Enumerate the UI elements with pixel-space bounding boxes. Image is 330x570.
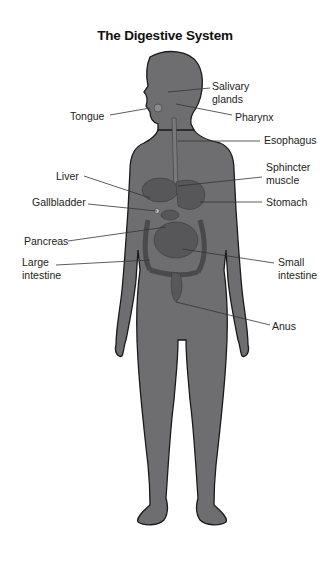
label-salivary-line1: Salivary	[212, 80, 249, 93]
label-sphincter-line1: Sphincter	[266, 161, 310, 174]
tongue-line	[110, 108, 150, 115]
mouth-region	[154, 104, 162, 112]
label-salivary-glands: Salivary glands	[212, 80, 249, 106]
label-anus: Anus	[272, 320, 296, 333]
label-pancreas: Pancreas	[24, 235, 68, 248]
human-body-figure	[0, 0, 330, 570]
label-stomach: Stomach	[266, 196, 307, 209]
label-small-intestine-line2: intestine	[278, 269, 317, 282]
label-small-intestine-line1: Small	[278, 256, 317, 269]
label-liver: Liver	[56, 170, 79, 183]
label-large-intestine-line1: Large	[22, 256, 61, 269]
label-tongue: Tongue	[70, 110, 104, 123]
label-sphincter-muscle: Sphincter muscle	[266, 161, 310, 187]
label-pharynx: Pharynx	[235, 111, 274, 124]
label-large-intestine-line2: intestine	[22, 269, 61, 282]
label-salivary-line2: glands	[212, 93, 249, 106]
label-sphincter-line2: muscle	[266, 174, 310, 187]
liver-organ	[142, 178, 178, 202]
label-gallbladder: Gallbladder	[32, 196, 86, 209]
label-esophagus: Esophagus	[264, 134, 317, 147]
label-large-intestine: Large intestine	[22, 256, 61, 282]
pancreas-organ	[161, 210, 179, 220]
label-small-intestine: Small intestine	[278, 256, 317, 282]
